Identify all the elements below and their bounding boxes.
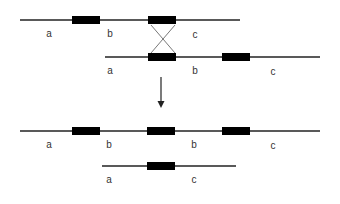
gene-box: [222, 127, 250, 135]
strand-label: a: [106, 175, 112, 185]
gene-box: [147, 127, 175, 135]
strand-label: b: [192, 66, 198, 76]
strand-before-bottom: [105, 53, 320, 61]
strand-label: a: [107, 66, 113, 76]
strand-after-short: [102, 162, 236, 170]
strand-label: c: [193, 30, 198, 40]
down-arrow-icon: [158, 77, 165, 108]
strand-before-top: [20, 16, 240, 24]
strand-label: b: [191, 140, 197, 150]
strand-label: c: [192, 175, 197, 185]
strand-label: a: [46, 140, 52, 150]
gene-box: [148, 53, 176, 61]
gene-box: [72, 16, 100, 24]
strand-label: b: [106, 140, 112, 150]
crossover-x: [151, 25, 175, 53]
gene-box: [147, 162, 175, 170]
strand-label: c: [271, 67, 276, 77]
strand-label: c: [271, 141, 276, 151]
strand-label: a: [46, 29, 52, 39]
strand-after-long: [20, 127, 320, 135]
strand-label: b: [107, 29, 113, 39]
gene-box: [72, 127, 100, 135]
gene-box: [148, 16, 176, 24]
gene-box: [222, 53, 250, 61]
